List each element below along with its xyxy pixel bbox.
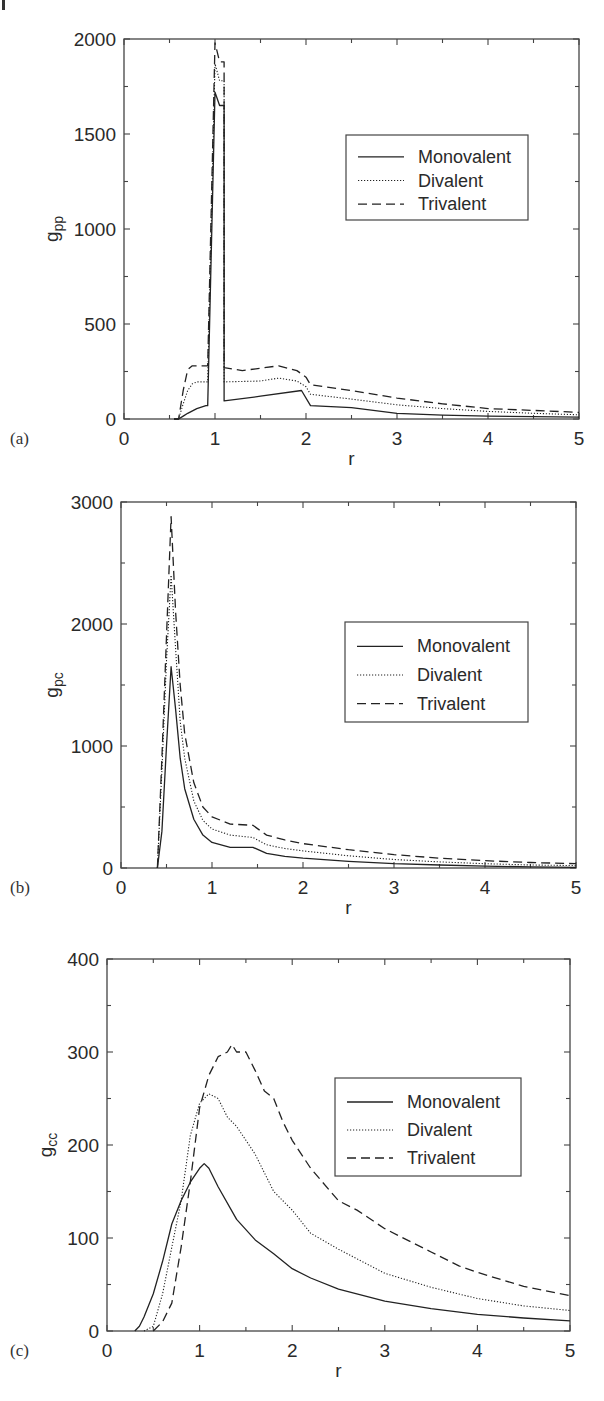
x-tick-label: 1 (194, 1340, 205, 1361)
series-line-divalent (174, 64, 579, 419)
chart-panel-a: 0123450500100015002000rgpp(a)MonovalentD… (10, 29, 584, 469)
x-tick-label: 4 (483, 428, 494, 449)
y-tick-label: 300 (67, 1042, 99, 1063)
x-tick-label: 4 (472, 1340, 483, 1361)
legend: MonovalentDivalentTrivalent (345, 622, 528, 722)
figure: 0123450500100015002000rgpp(a)MonovalentD… (0, 0, 604, 1401)
legend-label-trivalent: Trivalent (407, 1148, 475, 1168)
x-tick-label: 0 (102, 1340, 113, 1361)
y-axis-label: gcc (35, 1133, 60, 1158)
legend-label-trivalent: Trivalent (418, 194, 486, 214)
x-axis-label: r (345, 897, 352, 918)
x-tick-label: 0 (116, 877, 127, 898)
plot-frame (124, 39, 579, 419)
y-tick-label: 100 (67, 1228, 99, 1249)
x-tick-label: 2 (301, 428, 312, 449)
x-tick-label: 3 (380, 1340, 391, 1361)
chart-panel-b: 0123450100020003000rgpc(b)MonovalentDiva… (10, 492, 581, 918)
series-line-monovalent (135, 1164, 570, 1331)
y-axis-label: gpc (41, 672, 66, 697)
y-tick-label: 1000 (74, 219, 116, 240)
panel-label: (b) (10, 878, 30, 897)
y-tick-label: 0 (102, 858, 113, 879)
legend: MonovalentDivalentTrivalent (335, 1078, 521, 1176)
y-tick-label: 3000 (71, 492, 113, 513)
y-tick-label: 0 (105, 409, 116, 430)
y-tick-label: 500 (84, 314, 116, 335)
x-tick-label: 2 (287, 1340, 298, 1361)
legend-label-divalent: Divalent (417, 665, 482, 685)
x-tick-label: 5 (574, 428, 585, 449)
x-tick-label: 5 (565, 1340, 576, 1361)
panel-label: (a) (10, 429, 29, 448)
legend: MonovalentDivalentTrivalent (346, 135, 528, 220)
x-tick-label: 3 (389, 877, 400, 898)
legend-label-monovalent: Monovalent (407, 1092, 500, 1112)
y-axis-label: gpp (41, 216, 66, 242)
x-tick-label: 1 (207, 877, 218, 898)
series-line-trivalent (174, 43, 579, 419)
y-tick-label: 400 (67, 949, 99, 970)
x-tick-label: 4 (480, 877, 491, 898)
y-tick-label: 1500 (74, 124, 116, 145)
x-axis-label: r (335, 1360, 342, 1381)
legend-label-divalent: Divalent (407, 1120, 472, 1140)
legend-label-trivalent: Trivalent (417, 694, 485, 714)
y-tick-label: 1000 (71, 736, 113, 757)
legend-label-divalent: Divalent (418, 171, 483, 191)
y-tick-label: 2000 (71, 614, 113, 635)
y-tick-label: 0 (88, 1321, 99, 1342)
x-tick-label: 3 (392, 428, 403, 449)
x-tick-label: 2 (298, 877, 309, 898)
y-tick-label: 200 (67, 1135, 99, 1156)
chart-panel-c: 0123450100200300400rgcc(c)MonovalentDiva… (10, 949, 575, 1381)
x-axis-label: r (348, 448, 355, 469)
x-tick-label: 5 (571, 877, 582, 898)
legend-label-monovalent: Monovalent (417, 636, 510, 656)
x-tick-label: 1 (210, 428, 221, 449)
legend-label-monovalent: Monovalent (418, 147, 511, 167)
panel-label: (c) (10, 1341, 29, 1360)
x-tick-label: 0 (119, 428, 130, 449)
y-tick-label: 2000 (74, 29, 116, 50)
